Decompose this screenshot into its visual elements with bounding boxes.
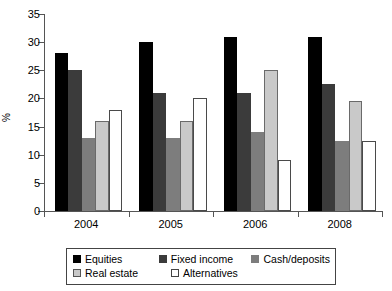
x-axis-tick — [298, 211, 299, 217]
legend-item: Equities — [73, 253, 159, 265]
y-axis-title: % — [1, 113, 12, 122]
y-axis-tick-label: 5 — [14, 178, 40, 189]
x-axis-tick — [382, 211, 383, 217]
bar — [82, 138, 96, 211]
bar — [237, 93, 251, 211]
legend-item: Real estate — [73, 267, 171, 279]
bar — [264, 70, 278, 211]
y-axis-tick-label: 15 — [14, 122, 40, 133]
bar — [308, 37, 322, 211]
y-axis-tick-label: 20 — [14, 93, 40, 104]
x-axis-tick-label: 2008 — [298, 218, 383, 230]
x-axis-tick — [44, 211, 45, 217]
bar-chart: % 2004200520062008 EquitiesFixed incomeC… — [0, 0, 392, 291]
legend-label: Cash/deposits — [263, 253, 330, 265]
legend-row: EquitiesFixed incomeCash/deposits — [73, 252, 330, 266]
bar — [109, 110, 123, 211]
legend-row: Real estateAlternatives — [73, 266, 330, 280]
x-axis-tick-label: 2005 — [129, 218, 214, 230]
bar — [251, 132, 265, 211]
legend-label: Alternatives — [183, 267, 238, 279]
legend-swatch-icon — [73, 269, 81, 277]
bar — [224, 37, 238, 211]
plot-area — [44, 14, 382, 212]
bar — [153, 93, 167, 211]
legend-item: Fixed income — [159, 253, 252, 265]
legend-item: Alternatives — [171, 267, 238, 279]
legend: EquitiesFixed incomeCash/deposits Real e… — [66, 248, 336, 285]
legend-swatch-icon — [73, 255, 81, 263]
y-axis-tick-label: 10 — [14, 150, 40, 161]
x-axis-tick-label: 2004 — [44, 218, 129, 230]
bar — [180, 121, 194, 211]
bar — [55, 53, 69, 211]
legend-label: Real estate — [85, 267, 138, 279]
legend-swatch-icon — [251, 255, 259, 263]
y-axis-tick-label: 30 — [14, 37, 40, 48]
legend-swatch-icon — [159, 255, 167, 263]
bar — [95, 121, 109, 211]
y-axis-tick-label: 0 — [14, 206, 40, 217]
legend-swatch-icon — [171, 269, 179, 277]
x-axis-tick-label: 2006 — [213, 218, 298, 230]
bar — [349, 101, 363, 211]
y-axis-tick-label: 25 — [14, 65, 40, 76]
legend-item: Cash/deposits — [251, 253, 330, 265]
legend-label: Equities — [85, 253, 122, 265]
bar — [362, 141, 376, 211]
bar — [335, 141, 349, 211]
legend-label: Fixed income — [171, 253, 233, 265]
bar — [322, 84, 336, 211]
bar — [278, 160, 292, 211]
x-axis-tick — [213, 211, 214, 217]
x-axis-tick — [129, 211, 130, 217]
bar — [68, 70, 82, 211]
bar — [193, 98, 207, 211]
bar — [166, 138, 180, 211]
bar — [139, 42, 153, 211]
y-axis-tick-label: 35 — [14, 9, 40, 20]
y-axis-line — [44, 14, 45, 212]
